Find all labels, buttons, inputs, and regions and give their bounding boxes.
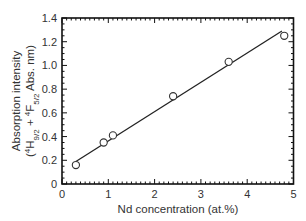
- data-point: [170, 93, 177, 100]
- y-axis-title-line1: Absorption intensity: [10, 51, 22, 152]
- x-tick-label: 2: [152, 188, 158, 200]
- data-point: [225, 58, 232, 65]
- x-tick-label: 3: [198, 188, 204, 200]
- x-tick-label: 1: [105, 188, 111, 200]
- x-tick-label: 5: [290, 188, 296, 200]
- data-point: [109, 132, 116, 139]
- chart: 012345 00.20.40.60.81.01.21.4 Nd concent…: [0, 0, 306, 221]
- y-tick-label: 0.8: [42, 83, 57, 95]
- data-point: [281, 32, 288, 39]
- y-tick-label: 1.0: [42, 59, 57, 71]
- y-tick-label: 0: [51, 178, 57, 190]
- x-tick-label: 4: [244, 188, 250, 200]
- y-tick-label: 1.2: [42, 36, 57, 48]
- y-tick-label: 0.2: [42, 154, 57, 166]
- y-tick-label: 0.4: [42, 131, 57, 143]
- y-tick-label: 0.6: [42, 107, 57, 119]
- x-axis-title: Nd concentration (at.%): [118, 203, 239, 215]
- y-axis-title-line2: (4H9/2 + 4F5/2 Abs. nm): [23, 45, 41, 157]
- data-point: [72, 161, 79, 168]
- plot-frame: [62, 18, 294, 184]
- x-tick-label: 0: [59, 188, 65, 200]
- x-axis-ticks: 012345: [59, 18, 297, 200]
- y-tick-label: 1.4: [42, 12, 57, 24]
- y-axis-title: Absorption intensity (4H9/2 + 4F5/2 Abs.…: [10, 45, 41, 157]
- data-points: [72, 32, 288, 168]
- data-point: [100, 139, 107, 146]
